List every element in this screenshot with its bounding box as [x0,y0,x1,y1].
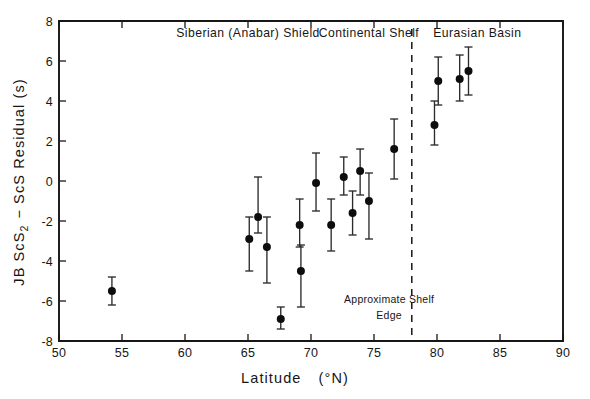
x-axis-title-main: Latitude [241,370,301,386]
data-point-group [296,199,304,247]
region-label-eurasian-basin: Eurasian Basin [433,26,521,40]
data-point-group [263,217,271,283]
data-point-marker [340,173,348,181]
y-axis-title-prefix: JB ScS [11,232,27,286]
data-point-marker [365,197,373,205]
y-tick-label-2: 2 [46,135,53,149]
data-point-marker [296,221,304,229]
data-point-marker [108,287,116,295]
y-axis-title-group: JB ScS2− ScS Residual (s) [11,78,30,285]
data-point-group [456,55,464,101]
y-tick-label--2: -2 [41,215,53,229]
x-axis-title: Latitude (°N) [241,370,349,386]
x-tick-label-50: 50 [52,346,66,360]
data-point-marker [297,267,305,275]
data-point-marker [349,209,357,217]
x-tick-label-70: 70 [304,346,318,360]
x-tick-label-80: 80 [430,346,444,360]
data-point-group [349,191,357,235]
data-point-group [356,149,364,195]
x-tick-label-90: 90 [556,346,570,360]
data-series-residuals [108,47,473,329]
x-tick-label-85: 85 [493,346,507,360]
region-label-continental-shelf: Continental Shelf [319,26,420,40]
data-point-group [434,57,442,105]
data-point-group [312,153,320,211]
region-annotations: Siberian (Anabar) ShieldContinental Shel… [176,26,521,40]
x-axis-title-group: Latitude (°N) [241,370,349,386]
data-point-group [340,157,348,195]
data-point-group [277,307,285,329]
data-point-marker [356,167,364,175]
y-axis-ticks: 86420-2-4-6-8 [41,15,66,349]
y-tick-label-0: 0 [46,175,53,189]
region-label-siberian-shield: Siberian (Anabar) Shield [176,26,320,40]
data-point-marker [263,243,271,251]
data-point-marker [277,315,285,323]
shelf-edge-label-line1: Approximate Shelf [344,293,434,305]
data-point-group [430,101,438,145]
data-point-marker [430,121,438,129]
plot-frame [59,21,563,341]
data-point-group [108,277,116,305]
residual-vs-latitude-scatter-plot: 505560657075808590 86420-2-4-6-8 Siberia… [0,0,590,399]
y-tick-label-6: 6 [46,55,53,69]
x-tick-label-75: 75 [367,346,381,360]
data-point-group [254,177,262,233]
figure-container: 505560657075808590 86420-2-4-6-8 Siberia… [0,0,590,399]
y-tick-label-8: 8 [46,15,53,29]
data-point-group [327,199,335,251]
data-point-marker [245,235,253,243]
data-point-group [245,217,253,271]
data-point-marker [312,179,320,187]
x-tick-label-60: 60 [178,346,192,360]
data-point-marker [390,145,398,153]
shelf-edge-label-line2: Edge [376,309,402,321]
data-point-group [390,119,398,179]
y-tick-label--6: -6 [41,295,53,309]
x-tick-label-55: 55 [115,346,129,360]
data-point-marker [254,213,262,221]
axes-box [59,21,563,341]
x-axis-ticks: 505560657075808590 [52,21,570,360]
y-axis-title-subscript: 2 [18,225,30,232]
data-point-group [297,245,305,307]
x-axis-title-units: (°N) [319,370,349,386]
y-tick-label--4: -4 [41,255,53,269]
y-axis-title: JB ScS2− ScS Residual (s) [11,78,30,285]
data-point-group [465,47,473,95]
x-tick-label-65: 65 [241,346,255,360]
data-point-group [365,173,373,239]
y-tick-label--8: -8 [41,335,53,349]
y-tick-label-4: 4 [46,95,53,109]
data-point-marker [434,77,442,85]
data-point-marker [465,67,473,75]
y-axis-title-suffix: − ScS Residual (s) [11,78,27,218]
data-point-marker [327,221,335,229]
data-point-marker [456,75,464,83]
